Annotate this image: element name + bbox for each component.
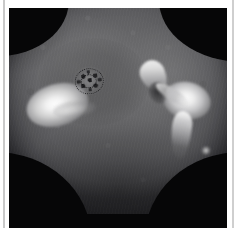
right-rule-divider [232, 0, 234, 228]
backdrop-mask-bottom-strip [9, 214, 227, 228]
screenshot-root: A round tomato fills the frame, lit from… [0, 0, 243, 228]
photograph-plate [9, 8, 227, 228]
left-rule-divider [3, 0, 5, 228]
